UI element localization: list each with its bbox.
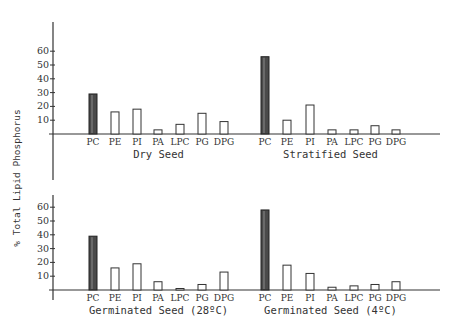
bar-pg — [198, 284, 206, 290]
bar-pe — [283, 265, 291, 290]
category-label: LPC — [171, 293, 190, 303]
chart-row-top: 102030405060PCPEPIPALPCPGDPGDry SeedPCPE… — [37, 22, 440, 180]
panel-germinated-seed-4-c: PCPEPIPALPCPGDPGGerminated Seed (4ºC) — [259, 210, 407, 316]
panel-title: Dry Seed — [133, 148, 184, 160]
category-label: PC — [87, 293, 100, 303]
bar-dpg — [220, 272, 228, 290]
y-tick-label: 60 — [37, 45, 49, 56]
category-label: PI — [132, 293, 142, 303]
category-label: PC — [87, 137, 100, 147]
category-label: LPC — [171, 137, 190, 147]
bar-dpg — [392, 130, 400, 134]
y-tick-label: 10 — [37, 114, 49, 125]
bar-pc — [261, 210, 269, 290]
category-label: LPC — [345, 137, 364, 147]
bar-pa — [328, 130, 336, 134]
category-label: PG — [195, 137, 208, 147]
bar-pe — [283, 120, 291, 134]
bar-lpc — [176, 289, 184, 291]
bar-lpc — [350, 130, 358, 134]
bar-pi — [306, 105, 314, 134]
bar-pg — [371, 284, 379, 290]
y-tick-label: 50 — [37, 59, 49, 70]
panel-dry-seed: PCPEPIPALPCPGDPGDry Seed — [87, 94, 235, 160]
category-label: PE — [281, 137, 294, 147]
bar-lpc — [176, 124, 184, 134]
category-label: PC — [259, 137, 272, 147]
category-label: PA — [152, 137, 164, 147]
panel-title: Germinated Seed (4ºC) — [264, 304, 397, 316]
category-label: PA — [326, 293, 338, 303]
bar-pe — [111, 112, 119, 134]
bar-pc — [89, 94, 97, 134]
bar-pa — [154, 282, 162, 290]
y-tick-label: 30 — [37, 87, 49, 98]
category-label: DPG — [386, 137, 406, 147]
y-tick-label: 40 — [37, 229, 49, 240]
panel-title: Germinated Seed (28ºC) — [89, 304, 228, 316]
y-tick-label: 40 — [37, 73, 49, 84]
category-label: DPG — [386, 293, 406, 303]
bar-pc — [261, 57, 269, 134]
bar-pc — [89, 236, 97, 290]
bar-dpg — [392, 282, 400, 290]
category-label: PA — [326, 137, 338, 147]
panel-germinated-seed-28-c: PCPEPIPALPCPGDPGGerminated Seed (28ºC) — [87, 236, 235, 316]
y-tick-label: 10 — [37, 270, 49, 281]
bar-pi — [133, 264, 141, 290]
category-label: PI — [132, 137, 142, 147]
category-label: LPC — [345, 293, 364, 303]
category-label: PA — [152, 293, 164, 303]
bar-dpg — [220, 122, 228, 134]
bar-pg — [198, 113, 206, 134]
y-tick-label: 20 — [37, 256, 49, 267]
category-label: PI — [305, 293, 315, 303]
y-axis-label: % Total Lipid Phosphorus — [11, 109, 22, 246]
lipid-phosphorus-bar-chart: % Total Lipid Phosphorus 102030405060PCP… — [0, 0, 455, 330]
category-label: PG — [195, 293, 208, 303]
bar-pg — [371, 126, 379, 134]
chart-row-bottom: 102030405060PCPEPIPALPCPGDPGGerminated S… — [37, 195, 440, 316]
bar-pa — [154, 130, 162, 134]
bar-pe — [111, 268, 119, 290]
bar-pi — [133, 109, 141, 134]
panel-stratified-seed: PCPEPIPALPCPGDPGStratified Seed — [259, 57, 407, 160]
category-label: PI — [305, 137, 315, 147]
category-label: PC — [259, 293, 272, 303]
category-label: PG — [368, 293, 381, 303]
category-label: DPG — [214, 293, 234, 303]
bar-pi — [306, 273, 314, 290]
y-tick-label: 60 — [37, 201, 49, 212]
bar-pa — [328, 287, 336, 290]
panel-title: Stratified Seed — [283, 148, 378, 160]
y-tick-label: 30 — [37, 243, 49, 254]
bar-lpc — [350, 286, 358, 290]
category-label: PE — [281, 293, 294, 303]
y-tick-label: 50 — [37, 215, 49, 226]
category-label: PE — [109, 293, 122, 303]
category-label: DPG — [214, 137, 234, 147]
y-tick-label: 20 — [37, 100, 49, 111]
category-label: PG — [368, 137, 381, 147]
category-label: PE — [109, 137, 122, 147]
